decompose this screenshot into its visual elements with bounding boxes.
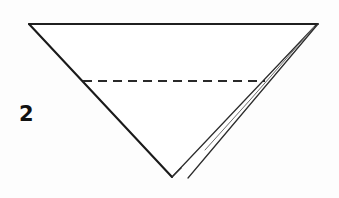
paper-face-main: [29, 24, 318, 178]
figure-drawing: [0, 0, 339, 198]
step-number-label: 2: [19, 104, 34, 125]
origami-step-figure: 2: [0, 0, 339, 198]
